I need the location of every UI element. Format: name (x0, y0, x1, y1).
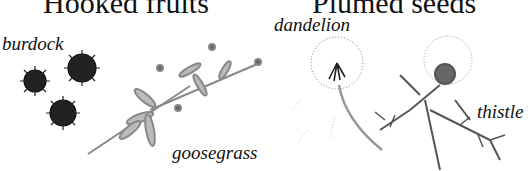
dandelion-seedhead-icon (292, 37, 382, 150)
goosegrass-plant-icon (88, 44, 262, 154)
illustrations (0, 0, 531, 171)
thistle-plant-icon (375, 36, 505, 170)
burdock-burr-icon (20, 50, 100, 130)
